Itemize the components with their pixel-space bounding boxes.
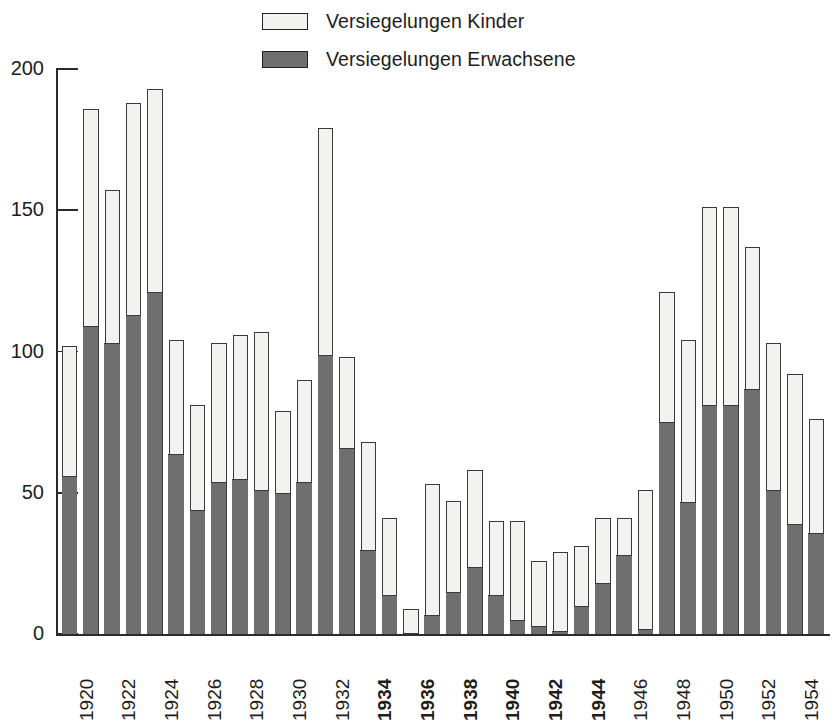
bar-1927 xyxy=(211,343,226,634)
bar-segment-erwachsene-1939 xyxy=(467,567,482,635)
bar-1928 xyxy=(233,335,248,634)
bar-1940 xyxy=(489,521,504,634)
bar-1934 xyxy=(361,442,376,634)
bar-segment-erwachsene-1951 xyxy=(723,405,738,634)
bar-segment-erwachsene-1947 xyxy=(638,629,653,635)
bar-segment-erwachsene-1930 xyxy=(275,493,290,634)
bar-1945 xyxy=(595,518,610,634)
bar-1926 xyxy=(190,405,205,634)
bar-1921 xyxy=(83,109,98,634)
bar-1951 xyxy=(723,207,738,634)
bar-1935 xyxy=(382,518,397,634)
bar-1955 xyxy=(809,419,824,634)
bar-segment-erwachsene-1934 xyxy=(360,550,375,635)
bar-1953 xyxy=(766,343,781,634)
bar-1931 xyxy=(297,380,312,634)
bar-segment-erwachsene-1935 xyxy=(382,595,397,635)
bar-segment-erwachsene-1945 xyxy=(595,583,610,634)
bar-segment-erwachsene-1928 xyxy=(232,479,247,634)
bar-segment-erwachsene-1929 xyxy=(254,490,269,634)
bar-segment-erwachsene-1922 xyxy=(104,343,119,634)
bar-segment-erwachsene-1921 xyxy=(83,326,98,634)
bar-segment-erwachsene-1940 xyxy=(488,595,503,635)
bar-1922 xyxy=(105,190,120,634)
bar-segment-erwachsene-1942 xyxy=(531,626,546,634)
bar-1944 xyxy=(574,546,589,634)
bar-1925 xyxy=(169,340,184,634)
bar-1924 xyxy=(147,89,162,634)
bar-1930 xyxy=(275,411,290,634)
bar-1933 xyxy=(339,357,354,634)
bar-segment-erwachsene-1950 xyxy=(702,405,717,634)
bar-1954 xyxy=(787,374,802,634)
bar-segment-erwachsene-1949 xyxy=(680,502,695,635)
bar-segment-erwachsene-1925 xyxy=(168,454,183,635)
bar-segment-erwachsene-1946 xyxy=(616,555,631,634)
bar-segment-erwachsene-1943 xyxy=(552,631,567,634)
bar-segment-erwachsene-1927 xyxy=(211,482,226,635)
bar-segment-erwachsene-1937 xyxy=(424,615,439,635)
bar-1943 xyxy=(553,552,568,634)
bar-segment-erwachsene-1920 xyxy=(62,476,77,634)
bar-1949 xyxy=(681,340,696,634)
bar-1939 xyxy=(467,470,482,634)
bar-1950 xyxy=(702,207,717,634)
bar-segment-erwachsene-1926 xyxy=(190,510,205,634)
bar-1929 xyxy=(254,332,269,634)
bar-1932 xyxy=(318,128,333,634)
bar-segment-erwachsene-1933 xyxy=(339,448,354,634)
bar-1947 xyxy=(638,490,653,634)
bar-1937 xyxy=(425,484,440,634)
bar-1936 xyxy=(403,609,418,634)
bar-segment-erwachsene-1938 xyxy=(446,592,461,634)
bar-1938 xyxy=(446,501,461,634)
bar-1942 xyxy=(531,561,546,634)
bar-segment-erwachsene-1924 xyxy=(147,292,162,634)
bar-segment-erwachsene-1954 xyxy=(787,524,802,634)
bar-segment-erwachsene-1931 xyxy=(296,482,311,635)
bar-1948 xyxy=(659,292,674,634)
bar-segment-erwachsene-1952 xyxy=(744,389,759,635)
bar-1946 xyxy=(617,518,632,634)
bar-segment-erwachsene-1948 xyxy=(659,422,674,634)
bar-segment-erwachsene-1932 xyxy=(318,355,333,635)
bar-segment-erwachsene-1953 xyxy=(766,490,781,634)
bar-segment-erwachsene-1923 xyxy=(126,315,141,634)
bar-1920 xyxy=(62,346,77,634)
bar-1941 xyxy=(510,521,525,634)
bar-1923 xyxy=(126,103,141,634)
bar-segment-erwachsene-1941 xyxy=(510,620,525,634)
bar-1952 xyxy=(745,247,760,634)
bar-segment-erwachsene-1944 xyxy=(574,606,589,634)
bar-segment-erwachsene-1955 xyxy=(808,533,823,635)
